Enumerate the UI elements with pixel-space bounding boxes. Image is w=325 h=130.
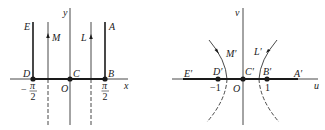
tick-one: 1 [265, 82, 270, 93]
label-v: v [235, 7, 240, 18]
label-E: E [23, 21, 30, 32]
label-A-prime: A′ [293, 68, 303, 79]
point-B-prime [264, 76, 269, 81]
tick-neg-one: −1 [210, 82, 221, 93]
point-C [67, 76, 72, 81]
right-diagram: v u E′ D′ C′ B′ A′ M′ L′ O −1 1 [172, 7, 319, 125]
label-L: L [80, 32, 87, 43]
label-C: C [73, 68, 80, 79]
label-origin: O [61, 83, 68, 94]
label-D-prime: D′ [212, 66, 223, 77]
label-D: D [22, 68, 31, 79]
tick-pos-pi: π [102, 80, 108, 91]
label-A: A [108, 21, 116, 32]
label-L-prime: L′ [253, 46, 263, 57]
tick-neg-pi: π [30, 80, 36, 91]
left-diagram: y x E A M L D C B O − π 2 π 2 [10, 7, 129, 125]
arrow-icon [215, 49, 220, 55]
label-M: M [51, 32, 61, 43]
tick-neg-sign: − [21, 84, 27, 95]
label-C-prime: C′ [245, 66, 255, 77]
label-B-prime: B′ [263, 66, 272, 77]
tick-pos-two: 2 [103, 91, 108, 102]
conformal-mapping-figure: y x E A M L D C B O − π 2 π 2 [0, 0, 325, 130]
point-C-prime [240, 76, 245, 81]
label-y: y [62, 7, 68, 18]
label-u: u [314, 80, 319, 91]
point-D-prime [215, 76, 220, 81]
arrow-up-icon [89, 34, 93, 39]
label-M-prime: M′ [225, 48, 237, 59]
label-x: x [123, 80, 129, 91]
label-E-prime: E′ [183, 68, 193, 79]
tick-neg-two: 2 [31, 91, 36, 102]
label-B: B [108, 68, 114, 79]
label-origin: O [233, 83, 240, 94]
arrow-up-icon [46, 33, 50, 38]
